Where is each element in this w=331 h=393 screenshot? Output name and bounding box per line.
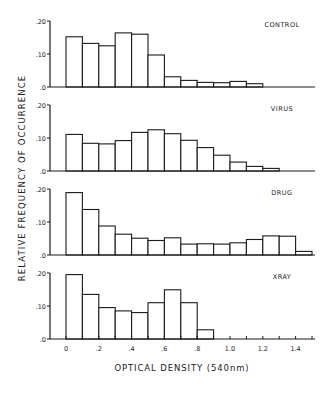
x-axis-title: OPTICAL DENSITY (540nm): [114, 363, 249, 373]
histogram-bar: [181, 303, 197, 339]
y-tick-label: .10: [36, 135, 46, 143]
histogram-bar: [66, 134, 82, 171]
histogram-bar: [148, 130, 164, 171]
x-tick-label: 1.2: [258, 345, 268, 353]
histogram-bar: [214, 244, 230, 255]
histogram-bar: [246, 166, 262, 171]
y-tick-label: .10: [36, 51, 46, 59]
y-tick-label: .20: [36, 18, 46, 26]
x-tick-label: .2: [96, 345, 102, 353]
x-tick-label: .4: [128, 345, 134, 353]
histogram-bar: [230, 243, 246, 255]
panel-control: .20.10.0CONTROL: [36, 18, 315, 92]
histogram-bar: [164, 238, 180, 255]
x-tick-label: 0: [64, 345, 68, 353]
histogram-bar: [115, 33, 131, 87]
panel-label: XRAY: [273, 273, 292, 281]
histogram-bar: [181, 80, 197, 87]
histogram-bar: [115, 311, 131, 339]
histogram-bar: [214, 155, 230, 171]
y-tick-label: .0: [40, 84, 46, 92]
y-tick-label: .0: [40, 252, 46, 260]
panel-drug: .20.10.0DRUG: [36, 186, 315, 260]
histogram-bar: [263, 236, 279, 255]
histogram-figure: .20.10.0CONTROL.20.10.0VIRUS.20.10.0DRUG…: [0, 0, 331, 393]
histogram-bar: [197, 82, 213, 87]
histogram-bar: [99, 46, 115, 87]
histogram-bar: [230, 81, 246, 87]
histogram-bar: [148, 303, 164, 339]
y-tick-label: .20: [36, 102, 46, 110]
x-tick-label: .8: [194, 345, 200, 353]
histogram-bar: [82, 294, 98, 339]
panel-label: CONTROL: [264, 21, 299, 29]
y-tick-label: .10: [36, 303, 46, 311]
histogram-bar: [132, 313, 148, 339]
histogram-bar: [181, 140, 197, 171]
histogram-bar: [197, 244, 213, 255]
panel-xray: .20.10.0XRAY0.2.4.6.81.01.21.4: [36, 270, 315, 354]
histogram-bar: [66, 193, 82, 255]
histogram-bar: [115, 141, 131, 171]
histogram-bar: [82, 210, 98, 256]
x-tick-label: 1.4: [290, 345, 300, 353]
histogram-bar: [82, 143, 98, 171]
histogram-bar: [279, 236, 295, 255]
histogram-bar: [115, 234, 131, 255]
y-axis-title: RELATIVE FREQUENCY OF OCCURRENCE: [17, 75, 27, 282]
panel-label: VIRUS: [271, 105, 293, 113]
histogram-bar: [197, 148, 213, 171]
histogram-bar: [164, 134, 180, 171]
histogram-bar: [99, 144, 115, 171]
y-tick-label: .20: [36, 270, 46, 278]
histogram-bar: [66, 275, 82, 339]
y-tick-label: .0: [40, 168, 46, 176]
histogram-bar: [181, 244, 197, 255]
histogram-bar: [164, 77, 180, 87]
panel-label: DRUG: [271, 189, 292, 197]
histogram-bar: [99, 308, 115, 339]
y-tick-label: .0: [40, 336, 46, 344]
histogram-bar: [82, 43, 98, 87]
y-tick-label: .10: [36, 219, 46, 227]
histogram-bar: [148, 55, 164, 87]
histogram-bar: [66, 37, 82, 87]
histogram-bar: [132, 132, 148, 171]
histogram-bar: [214, 83, 230, 87]
x-tick-label: 1.0: [225, 345, 235, 353]
histogram-bar: [246, 240, 262, 256]
histogram-bar: [230, 162, 246, 171]
histogram-bar: [132, 238, 148, 255]
histogram-bar: [148, 241, 164, 256]
histogram-bar: [164, 290, 180, 339]
x-tick-label: .6: [161, 345, 167, 353]
histogram-bar: [197, 330, 213, 339]
histogram-bar: [132, 34, 148, 87]
y-tick-label: .20: [36, 186, 46, 194]
panel-virus: .20.10.0VIRUS: [36, 102, 315, 176]
histogram-bar: [99, 226, 115, 255]
